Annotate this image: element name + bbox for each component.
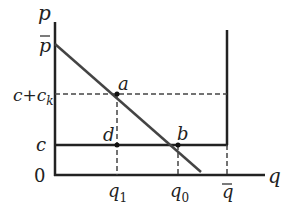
svg-text:c+ck: c+ck: [13, 85, 54, 108]
c-label: c: [36, 134, 46, 155]
q1-label: q1: [108, 180, 127, 205]
origin-label: 0: [34, 165, 45, 186]
point-d-label: d: [103, 124, 115, 145]
x-axis-label: q: [268, 164, 281, 188]
point-d: [115, 143, 120, 148]
demand-line: [55, 44, 201, 172]
svg-text:p: p: [39, 34, 51, 56]
p-bar-label: p: [39, 34, 51, 56]
c-plus-ck-label: c+ck: [13, 85, 54, 108]
diagram: p q 0 p c+ck c q1 q0 q a b d: [0, 0, 294, 213]
point-a-label: a: [118, 73, 129, 94]
svg-text:q0: q0: [170, 180, 189, 205]
y-axis-label: p: [38, 1, 51, 25]
svg-text:q: q: [222, 181, 234, 202]
q0-label: q0: [170, 180, 189, 205]
q-bar-label: q: [222, 181, 234, 202]
svg-text:q1: q1: [108, 180, 127, 205]
point-b-label: b: [177, 123, 189, 144]
